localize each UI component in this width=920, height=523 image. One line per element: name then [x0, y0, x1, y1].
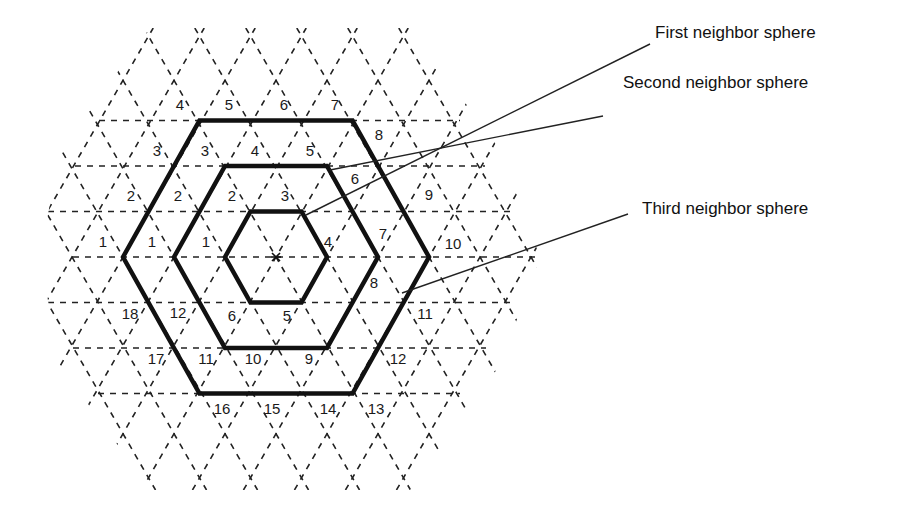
- third-shell-site-9: 9: [425, 187, 433, 202]
- first-shell-site-2: 2: [228, 188, 236, 203]
- lattice-diagonal-line: [0, 28, 255, 490]
- lattice-diagonal-line: [396, 28, 663, 490]
- second-shell-site-9: 9: [305, 351, 313, 366]
- leader-line-third: [402, 214, 628, 293]
- lattice-diagonal-line: [501, 28, 768, 490]
- lattice-diagonal-line: [450, 28, 717, 490]
- leader-lines: [306, 44, 650, 293]
- first-shell-site-5: 5: [283, 308, 291, 323]
- third-shell-site-1: 1: [99, 234, 107, 249]
- second-shell-site-4: 4: [251, 143, 259, 158]
- label-first-neighbor-sphere: First neighbor sphere: [655, 24, 816, 41]
- lattice-diagonal-line: [0, 28, 156, 490]
- third-shell-site-5: 5: [225, 97, 233, 112]
- lattice-diagonal-line: [399, 28, 666, 490]
- lattice-diagonal-line: [0, 28, 258, 490]
- second-shell-site-2: 2: [174, 188, 182, 203]
- third-shell-site-17: 17: [148, 351, 165, 366]
- first-shell-site-6: 6: [228, 308, 236, 323]
- second-shell-site-7: 7: [379, 226, 387, 241]
- second-shell-site-1: 1: [148, 234, 156, 249]
- lattice-diagonal-line: [0, 28, 51, 490]
- dashed-lattice-grid: [0, 28, 768, 490]
- lattice-diagonal-line: [0, 28, 54, 490]
- third-shell-site-10: 10: [445, 236, 462, 251]
- third-shell-site-3: 3: [153, 143, 161, 158]
- lattice-diagonal-line: [0, 28, 105, 490]
- second-shell-site-8: 8: [370, 275, 378, 290]
- second-shell-site-3: 3: [201, 143, 209, 158]
- lattice-diagonal-line: [348, 28, 615, 490]
- third-shell-site-14: 14: [320, 401, 337, 416]
- first-shell-site-3: 3: [281, 188, 289, 203]
- lattice-diagonal-line: [447, 28, 714, 490]
- label-third-neighbor-sphere: Third neighbor sphere: [642, 200, 808, 217]
- label-second-neighbor-sphere: Second neighbor sphere: [623, 74, 808, 91]
- third-shell-site-13: 13: [368, 401, 385, 416]
- second-shell-site-6: 6: [351, 171, 359, 186]
- third-shell-site-12: 12: [390, 351, 407, 366]
- first-shell-site-1: 1: [202, 234, 210, 249]
- third-shell-site-18: 18: [122, 306, 139, 321]
- third-shell-site-16: 16: [214, 401, 231, 416]
- third-shell-site-2: 2: [127, 188, 135, 203]
- first-shell-site-4: 4: [324, 234, 332, 249]
- third-shell-site-6: 6: [280, 97, 288, 112]
- center-atom-marker: [271, 253, 281, 261]
- third-shell-site-11: 11: [417, 306, 433, 321]
- lattice-diagonal-line: [0, 28, 102, 490]
- second-shell-site-11: 11: [198, 351, 214, 366]
- lattice-diagonal-line: [0, 28, 153, 490]
- lattice-diagonal-line: [498, 28, 765, 490]
- third-shell-site-15: 15: [264, 401, 281, 416]
- third-shell-site-8: 8: [375, 127, 383, 142]
- second-shell-site-5: 5: [306, 143, 314, 158]
- second-shell-site-12: 12: [170, 305, 187, 320]
- third-shell-site-4: 4: [176, 97, 184, 112]
- second-shell-site-10: 10: [245, 351, 262, 366]
- lattice-diagonal-line: [345, 28, 612, 490]
- leader-line-second: [330, 116, 603, 170]
- third-shell-site-7: 7: [331, 97, 339, 112]
